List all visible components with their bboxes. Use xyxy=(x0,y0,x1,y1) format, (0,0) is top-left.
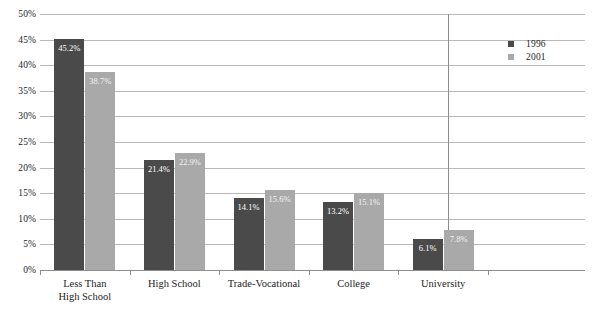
bar-1996[interactable]: 6.1% xyxy=(413,239,443,270)
x-axis-category-label-line1: University xyxy=(421,278,465,289)
legend-label: 1996 xyxy=(526,39,546,49)
chart-legend: 19962001 xyxy=(508,38,598,64)
legend-swatch-icon xyxy=(508,54,514,60)
bar-value-label: 22.9% xyxy=(175,157,205,167)
bar-group: 14.1%15.6% xyxy=(234,14,295,270)
bar-value-label: 6.1% xyxy=(413,243,443,253)
bar-value-label: 7.8% xyxy=(444,234,474,244)
bar-2001[interactable]: 15.6% xyxy=(265,190,295,270)
bar-value-label: 13.2% xyxy=(323,206,353,216)
x-axis-category-label-line1: High School xyxy=(148,278,201,289)
x-axis-category-label-line1: Trade-Vocational xyxy=(228,278,300,289)
bar-chart: 50%45%40%35%30%25%20%15%10%5%0% 45.2%38.… xyxy=(0,0,603,322)
chart-title xyxy=(60,0,440,3)
bar-group: 6.1%7.8% xyxy=(413,14,474,270)
bar-2001[interactable]: 7.8% xyxy=(444,230,474,270)
bar-value-label: 14.1% xyxy=(234,202,264,212)
x-axis-category-label-line1: Less Than xyxy=(63,278,106,289)
bar-1996[interactable]: 45.2% xyxy=(54,39,84,270)
legend-item[interactable]: 1996 xyxy=(508,38,598,50)
x-axis-tick xyxy=(219,270,220,275)
bar-group: 21.4%22.9% xyxy=(144,14,205,270)
x-axis-tick xyxy=(488,270,489,275)
x-axis: Less ThanHigh SchoolHigh SchoolTrade-Voc… xyxy=(40,270,488,320)
y-axis-tick-label: 35% xyxy=(2,86,36,96)
x-axis-category-label-line2: High School xyxy=(30,291,140,304)
x-axis-tick xyxy=(130,270,131,275)
bar-value-label: 15.1% xyxy=(354,197,384,207)
bar-2001[interactable]: 15.1% xyxy=(354,193,384,270)
y-axis-tick-label: 25% xyxy=(2,137,36,147)
legend-item[interactable]: 2001 xyxy=(508,51,598,63)
x-axis-tick xyxy=(398,270,399,275)
legend-swatch-icon xyxy=(508,41,514,47)
x-axis-tick xyxy=(309,270,310,275)
y-axis-tick-label: 40% xyxy=(2,60,36,70)
y-axis: 50%45%40%35%30%25%20%15%10%5%0% xyxy=(0,14,36,270)
y-axis-tick-label: 45% xyxy=(2,35,36,45)
y-axis-tick-label: 15% xyxy=(2,188,36,198)
bar-group: 45.2%38.7% xyxy=(54,14,115,270)
bar-1996[interactable]: 13.2% xyxy=(323,202,353,270)
bar-2001[interactable]: 22.9% xyxy=(175,153,205,270)
y-axis-tick-label: 10% xyxy=(2,214,36,224)
x-axis-tick xyxy=(40,270,41,275)
bar-1996[interactable]: 21.4% xyxy=(144,160,174,270)
y-axis-tick-label: 30% xyxy=(2,111,36,121)
x-axis-category-label-line1: College xyxy=(337,278,370,289)
bar-group: 13.2%15.1% xyxy=(323,14,384,270)
bar-value-label: 21.4% xyxy=(144,164,174,174)
y-axis-tick-label: 20% xyxy=(2,163,36,173)
bar-value-label: 38.7% xyxy=(85,76,115,86)
bar-value-label: 15.6% xyxy=(265,194,295,204)
y-axis-tick-label: 0% xyxy=(2,265,36,275)
bar-2001[interactable]: 38.7% xyxy=(85,72,115,270)
bar-value-label: 45.2% xyxy=(54,43,84,53)
x-axis-category-label: University xyxy=(388,278,498,291)
legend-label: 2001 xyxy=(526,52,546,62)
y-axis-tick-label: 50% xyxy=(2,9,36,19)
y-axis-tick-label: 5% xyxy=(2,239,36,249)
bar-1996[interactable]: 14.1% xyxy=(234,198,264,270)
bars-layer: 45.2%38.7%21.4%22.9%14.1%15.6%13.2%15.1%… xyxy=(40,14,488,270)
